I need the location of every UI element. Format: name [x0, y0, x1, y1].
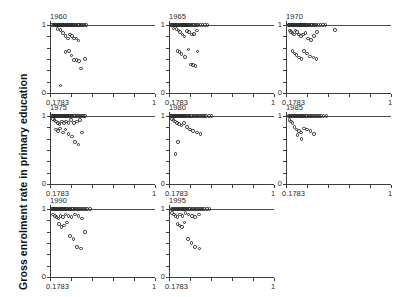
data-point [315, 57, 319, 61]
data-point [70, 54, 74, 58]
y-tick-label: 0 [153, 89, 165, 97]
data-point [174, 152, 178, 156]
data-point [83, 230, 87, 234]
x-tick [307, 94, 308, 97]
x-tick [349, 185, 350, 188]
data-point [183, 35, 187, 39]
x-tick [71, 94, 72, 97]
x-tick [190, 94, 191, 97]
x-tick [286, 185, 287, 188]
x-tick [134, 185, 135, 188]
data-point [187, 48, 191, 52]
y-tick-label: 1 [153, 112, 165, 120]
y-tick-label: 0 [34, 89, 46, 97]
data-point [66, 37, 70, 41]
x-tick [286, 94, 287, 97]
data-point [291, 121, 295, 125]
panel-1960: 1960010.17831 [36, 12, 171, 112]
plot-area: 010.17831 [50, 21, 155, 93]
data-point [70, 215, 74, 219]
x-axis-line [286, 184, 391, 185]
data-point [77, 143, 81, 147]
y-tick-label: 0 [153, 180, 165, 188]
data-point [199, 132, 203, 136]
y-tick-label: 1 [34, 21, 46, 29]
data-point [299, 131, 303, 135]
data-point [208, 207, 212, 211]
data-point [83, 57, 87, 61]
x-tick [307, 185, 308, 188]
x-tick [391, 94, 392, 97]
x-axis-line [286, 93, 391, 94]
data-point [210, 114, 214, 118]
x-tick [71, 185, 72, 188]
data-point [186, 237, 190, 241]
data-point [83, 114, 87, 118]
x-tick [50, 94, 51, 97]
data-point [65, 221, 69, 225]
data-point [333, 28, 337, 32]
x-tick-label: 0.1783 [46, 283, 69, 291]
x-tick [253, 94, 254, 97]
data-points-layer [286, 21, 391, 93]
x-tick-label: 0.1783 [165, 283, 188, 291]
y-axis-label: Gross enrolment rate in primary educatio… [17, 74, 29, 291]
panel-title: 1980 [169, 103, 186, 112]
x-tick [232, 185, 233, 188]
data-point [192, 32, 196, 36]
plot-area: 010.17831 [169, 112, 274, 184]
y-tick-label: 0 [270, 180, 282, 188]
data-points-layer [50, 205, 155, 277]
panel-1995: 1995010.17831 [155, 196, 290, 296]
x-tick [349, 94, 350, 97]
y-tick-label: 1 [270, 21, 282, 29]
data-point [59, 84, 63, 88]
x-tick [92, 278, 93, 281]
x-tick [134, 94, 135, 97]
x-axis-line [50, 93, 155, 94]
plot-area: 010.17831 [50, 112, 155, 184]
plot-area: 010.17831 [286, 21, 391, 93]
data-point [195, 29, 199, 33]
data-point [206, 23, 210, 27]
data-point [182, 121, 186, 125]
data-point [312, 132, 316, 136]
plot-area: 010.17831 [286, 112, 391, 184]
data-point [61, 131, 65, 135]
x-tick [169, 278, 170, 281]
data-point [180, 225, 184, 229]
x-tick [232, 278, 233, 281]
data-point [315, 30, 319, 34]
plot-area: 010.17831 [169, 205, 274, 277]
data-point [77, 39, 81, 43]
x-axis-line [169, 93, 274, 94]
x-axis-line [50, 184, 155, 185]
data-point [80, 217, 84, 221]
data-point [300, 57, 304, 61]
x-tick [113, 94, 114, 97]
y-tick-label: 1 [34, 205, 46, 213]
x-tick [190, 278, 191, 281]
data-point [325, 114, 329, 118]
x-tick [391, 185, 392, 188]
x-tick [253, 278, 254, 281]
scatterplot-matrix-figure: Gross enrolment rate in primary educatio… [0, 0, 405, 297]
data-point [64, 128, 68, 132]
x-tick [253, 185, 254, 188]
data-point [79, 67, 83, 71]
x-tick [211, 185, 212, 188]
y-axis-label-container: Gross enrolment rate in primary educatio… [0, 0, 24, 297]
data-point [324, 23, 328, 27]
y-tick-label: 0 [34, 273, 46, 281]
panel-1985: 1985010.17831 [272, 103, 405, 203]
x-tick [169, 94, 170, 97]
y-tick-label: 0 [270, 89, 282, 97]
data-point [197, 213, 201, 217]
data-point [190, 241, 194, 245]
data-point [300, 137, 304, 141]
x-tick [71, 278, 72, 281]
panel-title: 1995 [169, 196, 186, 205]
plot-area: 010.17831 [169, 21, 274, 93]
data-point [70, 135, 74, 139]
data-point [78, 118, 82, 122]
